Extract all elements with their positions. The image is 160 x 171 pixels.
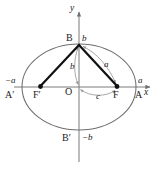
vertex-b-top-label: B xyxy=(66,33,73,43)
value-a-left-label: −a xyxy=(5,76,16,85)
measure-c-label: c xyxy=(96,92,100,101)
x-axis-label: x xyxy=(144,88,148,98)
dimension-arc-b xyxy=(75,47,79,85)
vertex-b-bottom-label: B′ xyxy=(62,133,71,143)
value-b-top-label: b xyxy=(82,34,87,43)
origin-label: O xyxy=(65,87,72,97)
measure-a-label: a xyxy=(104,60,109,69)
vertex-a-right-label: A xyxy=(135,90,142,100)
focus-right-label: F xyxy=(113,90,119,100)
measure-b-label: b xyxy=(70,62,75,71)
vertex-a-left-label: A′ xyxy=(5,90,14,100)
value-a-right-label: a xyxy=(138,76,143,85)
ellipse-geometry-figure: y x O B b B′ −b −a A′ a A F′ F b a c xyxy=(0,0,160,171)
value-b-bottom-label: −b xyxy=(82,133,93,142)
y-axis-label: y xyxy=(70,4,74,14)
figure-canvas xyxy=(0,0,160,171)
focus-left-label: F′ xyxy=(33,90,41,100)
